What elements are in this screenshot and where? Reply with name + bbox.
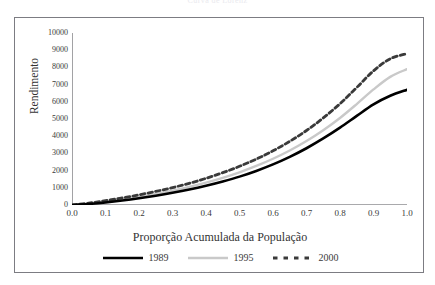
legend-swatch-2000: [272, 254, 314, 262]
legend-label-2000: 2000: [319, 253, 339, 263]
y-tick-label: 8000: [52, 63, 68, 71]
legend-swatch-1989: [102, 254, 144, 262]
legend-swatch-1995: [187, 254, 229, 262]
chart-legend: 198919952000: [15, 253, 425, 263]
line-chart-canvas: [72, 33, 407, 205]
y-axis-title: Rendimento: [28, 31, 40, 141]
x-tick-label: 0.7: [301, 209, 312, 218]
chart-frame: Rendimento 01000200030004000500060007000…: [14, 17, 424, 273]
y-tick-label: 10000: [48, 29, 68, 37]
y-tick-label: 1000: [52, 184, 68, 192]
figure-title: Curva de Lorenz: [0, 0, 435, 6]
series-line-1989: [72, 90, 407, 205]
legend-label-1989: 1989: [149, 253, 169, 263]
legend-item-1995[interactable]: 1995: [187, 253, 254, 263]
y-tick-label: 7000: [52, 81, 68, 89]
x-tick-label: 1.0: [401, 209, 412, 218]
y-tick-label: 5000: [52, 115, 68, 123]
legend-item-2000[interactable]: 2000: [272, 253, 339, 263]
y-tick-label: 3000: [52, 149, 68, 157]
y-tick-label: 6000: [52, 98, 68, 106]
series-line-1995: [72, 69, 407, 205]
y-tick-label: 9000: [52, 46, 68, 54]
plot-area: 0100020003000400050006000700080009000100…: [72, 33, 407, 205]
y-tick-label: 4000: [52, 132, 68, 140]
x-tick-label: 0.5: [234, 209, 245, 218]
x-tick-label: 0.8: [334, 209, 345, 218]
series-line-2000: [72, 54, 407, 205]
x-axis-title: Proporção Acumulada da População: [15, 230, 425, 245]
legend-label-1995: 1995: [234, 253, 254, 263]
x-tick-label: 0.2: [133, 209, 144, 218]
x-tick-label: 0.6: [267, 209, 278, 218]
legend-item-1989[interactable]: 1989: [102, 253, 169, 263]
x-tick-label: 0.4: [200, 209, 211, 218]
y-tick-label: 2000: [52, 167, 68, 175]
x-tick-label: 0.0: [66, 209, 77, 218]
x-tick-label: 0.1: [100, 209, 111, 218]
x-tick-label: 0.3: [167, 209, 178, 218]
x-tick-label: 0.9: [368, 209, 379, 218]
